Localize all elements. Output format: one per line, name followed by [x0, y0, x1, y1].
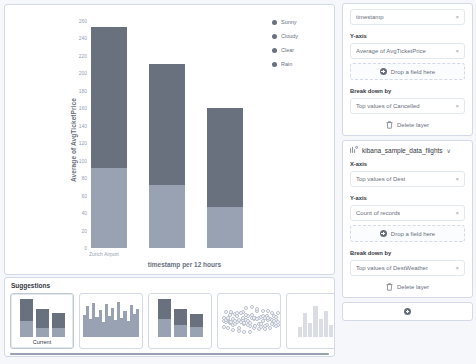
- y-axis-tick: 0: [84, 246, 87, 251]
- suggestions-title: Suggestions: [11, 282, 329, 289]
- scatter-point: [226, 316, 230, 320]
- bar-segment[interactable]: [207, 108, 243, 207]
- scatter-point: [250, 305, 254, 309]
- y-axis-ticks: 020406080100120140160180200220240260: [61, 21, 87, 248]
- bar-segment[interactable]: [91, 27, 127, 168]
- plus-circle-icon: [404, 308, 411, 315]
- bar-segment[interactable]: [207, 207, 243, 248]
- scatter-point: [244, 306, 248, 310]
- legend-color-dot: [272, 48, 277, 53]
- break-down-group-label: Break down by: [350, 88, 465, 94]
- scatter-point: [244, 313, 248, 317]
- field-label: timestamp: [356, 14, 384, 20]
- datasource-label: kibana_sample_data_flights: [362, 147, 443, 154]
- delete-layer-label: Delete layer: [397, 122, 429, 128]
- y-axis-group-label: Y-axis: [350, 195, 465, 201]
- scatter-point: [272, 319, 276, 323]
- trash-icon: [386, 283, 393, 291]
- chevron-down-icon[interactable]: ∨: [447, 147, 451, 154]
- scatter-point: [248, 330, 252, 334]
- x-axis-group-label: X-axis: [350, 161, 465, 167]
- suggestion-card-3[interactable]: [217, 293, 281, 349]
- legend-item[interactable]: Rain: [272, 61, 326, 67]
- delete-layer-button-top[interactable]: Delete layer: [350, 121, 465, 129]
- suggestion-card-2[interactable]: [148, 293, 212, 349]
- suggestion-card-current[interactable]: Current: [10, 293, 74, 349]
- scatter-point: [255, 317, 259, 321]
- y-axis-drop-zone-top[interactable]: Drop a field here: [350, 63, 465, 80]
- legend-label: Rain: [281, 61, 292, 67]
- x-axis-title: timestamp per 12 hours: [5, 261, 334, 268]
- remove-icon[interactable]: ×: [452, 210, 459, 216]
- field-label: Average of AvgTicketPrice: [356, 48, 426, 54]
- legend-item[interactable]: Cloudy: [272, 33, 326, 39]
- x-axis-field-dest[interactable]: Top values of Dest ×: [350, 171, 465, 187]
- delete-layer-button-bottom[interactable]: Delete layer: [350, 283, 465, 291]
- remove-icon[interactable]: ×: [452, 176, 459, 182]
- bar-column[interactable]: [91, 27, 127, 248]
- scatter-point: [242, 330, 246, 334]
- plus-circle-icon: [380, 230, 387, 237]
- layer-header[interactable]: kibana_sample_data_flights ∨: [350, 146, 465, 154]
- chart-legend: SunnyCloudyClearRain: [272, 19, 326, 75]
- remove-icon[interactable]: ×: [452, 103, 459, 109]
- x-axis-field-timestamp[interactable]: timestamp ×: [350, 9, 465, 25]
- legend-label: Clear: [281, 47, 294, 53]
- y-axis-drop-zone-bottom[interactable]: Drop a field here: [350, 225, 465, 242]
- legend-color-dot: [272, 20, 277, 25]
- scatter-point: [274, 324, 278, 328]
- bar-column[interactable]: [207, 108, 243, 248]
- y-axis-tick: 100: [79, 158, 87, 163]
- scatter-point: [276, 320, 280, 324]
- remove-icon[interactable]: ×: [452, 265, 459, 271]
- y-axis-tick: 60: [81, 193, 87, 198]
- scatter-point: [257, 327, 261, 331]
- suggestions-scrollbar[interactable]: [10, 353, 329, 355]
- legend-item[interactable]: Clear: [272, 47, 326, 53]
- scatter-point: [248, 321, 252, 325]
- y-axis-field-count[interactable]: Count of records ×: [350, 205, 465, 221]
- bar-segment[interactable]: [149, 64, 185, 185]
- scatter-point: [268, 326, 272, 330]
- suggestion-thumb-stacked-bar: [20, 299, 65, 337]
- suggestions-row: Current: [10, 293, 329, 349]
- legend-item[interactable]: Sunny: [272, 19, 326, 25]
- y-axis-field-avgticketprice[interactable]: Average of AvgTicketPrice ×: [350, 43, 465, 59]
- y-axis-tick: 20: [81, 228, 87, 233]
- breakdown-field-destweather[interactable]: Top values of DestWeather ×: [350, 260, 465, 276]
- legend-label: Sunny: [281, 19, 297, 25]
- x-axis-tick-label: Zurich Airport: [89, 251, 119, 257]
- y-axis-tick: 160: [79, 106, 87, 111]
- legend-color-dot: [272, 62, 277, 67]
- y-axis-tick: 80: [81, 176, 87, 181]
- chart-panel: Average of AvgTicketPrice 02040608010012…: [4, 4, 335, 275]
- drop-zone-label: Drop a field here: [391, 231, 435, 237]
- bar-column[interactable]: [149, 64, 185, 248]
- suggestion-card-4[interactable]: [286, 293, 335, 349]
- add-layer-button[interactable]: [342, 302, 473, 321]
- scatter-point: [259, 322, 263, 326]
- bar-segment[interactable]: [149, 185, 185, 248]
- suggestion-card-1[interactable]: [79, 293, 143, 349]
- scatter-point: [261, 309, 265, 313]
- scatter-point: [263, 324, 267, 328]
- remove-icon[interactable]: ×: [452, 14, 459, 20]
- legend-color-dot: [272, 34, 277, 39]
- layer-panel-bottom: kibana_sample_data_flights ∨ X-axis Top …: [342, 140, 473, 298]
- scatter-point: [239, 311, 243, 315]
- break-down-group-label: Break down by: [350, 250, 465, 256]
- delete-layer-label: Delete layer: [397, 284, 429, 290]
- workspace-column: Average of AvgTicketPrice 02040608010012…: [0, 0, 339, 364]
- field-label: Count of records: [356, 210, 400, 216]
- scatter-point: [222, 325, 226, 329]
- suggestions-panel: Suggestions Current: [4, 277, 335, 357]
- plot-area: [89, 21, 272, 248]
- suggestion-thumb-faint-bars: [298, 299, 335, 337]
- breakdown-field-cancelled[interactable]: Top values of Cancelled ×: [350, 98, 465, 114]
- index-pattern-icon: [350, 146, 358, 154]
- bar-series: [89, 21, 272, 248]
- suggestion-caption: Current: [11, 339, 73, 345]
- y-axis-tick: 140: [79, 123, 87, 128]
- bar-segment[interactable]: [91, 168, 127, 248]
- remove-icon[interactable]: ×: [452, 48, 459, 54]
